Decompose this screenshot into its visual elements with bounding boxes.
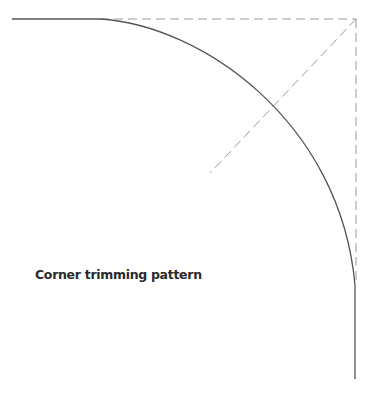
corner-diagonal-dashed <box>210 19 356 173</box>
corner-trimming-diagram <box>0 0 369 395</box>
trimmed-corner-curve <box>100 19 355 285</box>
diagram-caption: Corner trimming pattern <box>35 267 202 282</box>
